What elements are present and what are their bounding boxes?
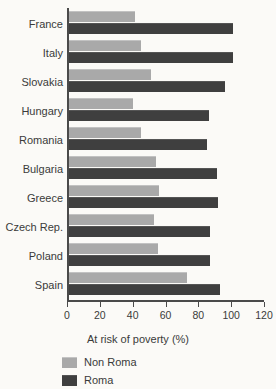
bar-roma — [69, 255, 210, 266]
x-tick — [133, 302, 134, 307]
bar-roma — [69, 197, 218, 208]
x-tick-label: 80 — [192, 309, 204, 321]
bar-roma — [69, 52, 233, 63]
x-tick-label: 120 — [255, 309, 273, 321]
bar-group: Poland — [69, 243, 266, 269]
bar-roma — [69, 110, 209, 121]
legend-label: Non Roma — [84, 356, 137, 368]
legend-label: Roma — [84, 374, 113, 386]
category-label: Poland — [29, 250, 63, 262]
chart-page: 020406080100120 FranceItalySlovakiaHunga… — [0, 0, 276, 389]
legend-swatch — [62, 375, 77, 386]
x-tick-label: 0 — [64, 309, 70, 321]
bar-roma — [69, 284, 220, 295]
bar-non-roma — [69, 11, 135, 22]
category-label: Italy — [43, 47, 63, 59]
legend-item: Non Roma — [62, 354, 137, 370]
category-label: Slovakia — [21, 76, 63, 88]
x-tick — [231, 302, 232, 307]
bar-group: Hungary — [69, 98, 266, 124]
bar-non-roma — [69, 185, 159, 196]
x-tick-label: 60 — [160, 309, 172, 321]
bar-non-roma — [69, 98, 133, 109]
x-tick-label: 20 — [94, 309, 106, 321]
bar-roma — [69, 81, 225, 92]
bar-group: Slovakia — [69, 69, 266, 95]
bar-roma — [69, 139, 207, 150]
category-label: Spain — [35, 279, 63, 291]
category-label: Hungary — [21, 105, 63, 117]
bar-non-roma — [69, 272, 187, 283]
bar-roma — [69, 226, 210, 237]
x-tick-label: 40 — [127, 309, 139, 321]
bar-non-roma — [69, 243, 158, 254]
bar-non-roma — [69, 156, 156, 167]
x-tick-label: 100 — [222, 309, 240, 321]
bar-non-roma — [69, 127, 141, 138]
bar-group: Spain — [69, 272, 266, 298]
bar-non-roma — [69, 214, 154, 225]
bar-roma — [69, 23, 233, 34]
x-tick — [264, 302, 265, 307]
category-label: Greece — [27, 192, 63, 204]
bar-non-roma — [69, 69, 151, 80]
bar-group: Bulgaria — [69, 156, 266, 182]
bar-roma — [69, 168, 217, 179]
x-tick — [67, 302, 68, 307]
x-axis-title: At risk of poverty (%) — [0, 333, 276, 345]
plot-area: 020406080100120 FranceItalySlovakiaHunga… — [67, 8, 264, 300]
bar-group: France — [69, 11, 266, 37]
category-label: France — [29, 18, 63, 30]
x-tick — [100, 302, 101, 307]
bar-group: Greece — [69, 185, 266, 211]
category-label: Bulgaria — [23, 163, 63, 175]
bar-group: Italy — [69, 40, 266, 66]
x-tick — [166, 302, 167, 307]
bar-group: Czech Rep. — [69, 214, 266, 240]
category-label: Romania — [19, 134, 63, 146]
legend-swatch — [62, 357, 77, 368]
legend-item: Roma — [62, 372, 137, 388]
bar-non-roma — [69, 40, 141, 51]
x-tick — [198, 302, 199, 307]
chart-legend: Non RomaRoma — [62, 354, 137, 389]
category-label: Czech Rep. — [6, 221, 63, 233]
bar-group: Romania — [69, 127, 266, 153]
